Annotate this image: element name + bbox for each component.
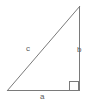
right-triangle-diagram: c b a	[0, 0, 90, 110]
hypotenuse-line	[7, 6, 80, 91]
triangle-graphic	[0, 0, 90, 110]
side-label-b: b	[77, 46, 81, 54]
side-label-a: a	[40, 93, 44, 101]
right-angle-square	[70, 82, 79, 91]
side-label-c: c	[26, 45, 30, 53]
